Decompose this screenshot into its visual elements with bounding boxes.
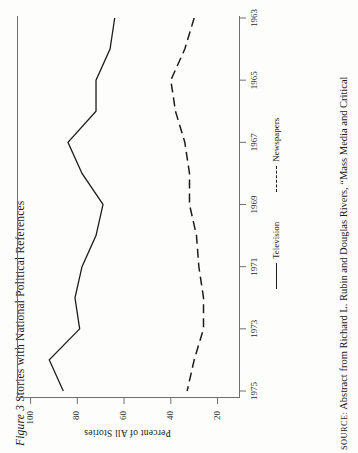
legend-swatch-solid — [276, 263, 277, 289]
figure-page: Figure 3 Stories with National Political… — [0, 0, 358, 453]
source-text: Abstract from Richard L. Rubin and Dougl… — [338, 76, 349, 409]
year-tick-label: 1973 — [249, 316, 259, 342]
plot-area: 100806040201963196519671969197119731975 … — [17, 16, 300, 407]
legend-item-newspapers: Newspapers — [271, 118, 281, 192]
plot-area-rotated: 100806040201963196519671969197119731975 … — [17, 16, 300, 407]
legend-label: Television — [271, 222, 281, 259]
series-line-newspapers — [171, 18, 204, 391]
year-tick-label: 1963 — [249, 5, 259, 31]
legend-label: Newspapers — [271, 118, 281, 162]
figure-source: SOURCE: Abstract from Richard L. Rubin a… — [338, 0, 354, 450]
data-series — [49, 18, 203, 391]
value-axis-label: Percent of All Stories — [57, 428, 197, 439]
value-tick-label: 20 — [212, 411, 222, 431]
year-tick-label: 1975 — [249, 378, 259, 404]
year-tick-label: 1967 — [249, 129, 259, 155]
year-tick-label: 1965 — [249, 67, 259, 93]
legend-swatch-dashed — [276, 166, 277, 192]
source-prefix: SOURCE: — [340, 412, 349, 450]
axis-frame — [17, 16, 240, 398]
year-tick-label: 1969 — [249, 192, 259, 218]
value-tick-label: 100 — [25, 411, 35, 431]
series-line-television — [49, 18, 114, 391]
year-tick-label: 1971 — [249, 254, 259, 280]
chart-legend: TelevisionNewspapers — [271, 118, 281, 289]
legend-item-television: Television — [271, 222, 281, 289]
